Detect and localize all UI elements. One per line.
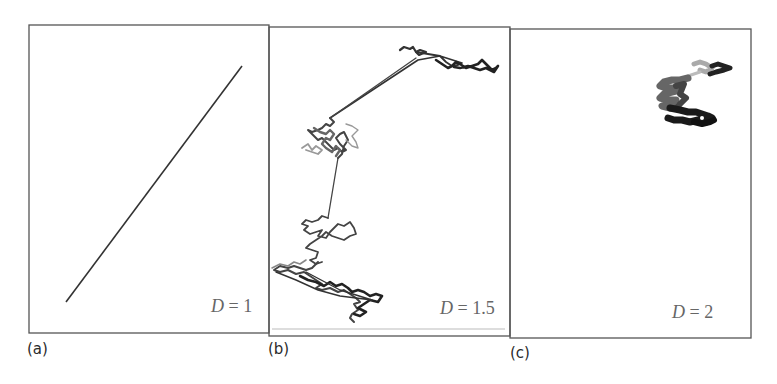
- panel-c-label: (c): [510, 344, 530, 362]
- panel-a-label: (a): [27, 340, 48, 358]
- panel-c-dimension-label: D = 2: [672, 302, 713, 323]
- panel-a-dimension-label: D = 1: [211, 296, 252, 317]
- panel-c-frame: [510, 29, 751, 338]
- panel-c-random-walk: [660, 62, 730, 124]
- figure-canvas: [0, 0, 777, 384]
- panel-b-random-walk: [272, 47, 498, 322]
- panel-frames: [29, 25, 751, 338]
- panel-a-straight-line: [66, 66, 242, 302]
- panel-b-dimension-label: D = 1.5: [440, 298, 495, 319]
- panel-a-frame: [29, 25, 269, 333]
- panel-b-frame: [269, 27, 510, 336]
- panel-b-label: (b): [268, 340, 289, 358]
